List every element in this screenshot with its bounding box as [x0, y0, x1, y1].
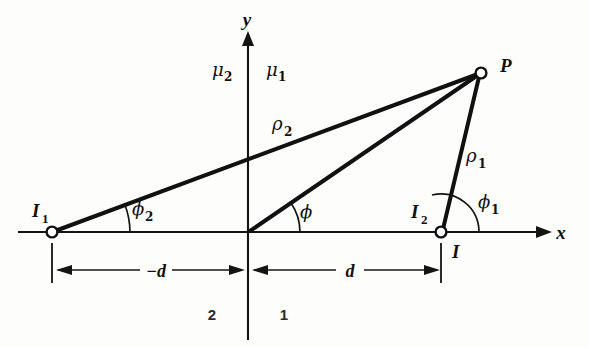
label-I2: I 2 [410, 201, 428, 227]
point-marker-I1 [47, 227, 58, 238]
x-axis [18, 226, 552, 238]
rho2-symbol: ρ [271, 113, 283, 134]
phi-symbol: ϕ [300, 201, 312, 222]
dim-arrowhead-negd-start [56, 265, 72, 275]
y-axis-label: y [241, 9, 252, 30]
y-axis [242, 31, 254, 340]
I-label: I [451, 241, 460, 262]
label-phi1: ϕ 1 [478, 191, 499, 217]
I1-symbol: I [31, 200, 40, 221]
region-label-1: 1 [280, 306, 288, 323]
dimension-group [52, 243, 441, 283]
dimension-label-neg-d: −d [146, 261, 167, 281]
phi1-symbol: ϕ [478, 191, 490, 212]
angle-arc-phi [291, 203, 300, 232]
mu2-symbol: μ [212, 59, 224, 80]
ray-rho-line [250, 75, 478, 231]
label-rho2: ρ 2 [271, 113, 292, 139]
label-mu2: μ 2 [212, 59, 232, 84]
I2-symbol: I [410, 201, 419, 222]
dim-arrowhead-negd-end [229, 265, 245, 275]
mu2-subscript: 2 [224, 70, 232, 84]
image-current-diagram: y x μ 2 μ 1 I 1 I 2 P I ρ 2 [0, 0, 589, 347]
label-mu1: μ 1 [266, 59, 286, 84]
point-marker-I2 [436, 227, 447, 238]
mu1-symbol: μ [266, 59, 278, 80]
P-label: P [499, 55, 512, 76]
physics-diagram-canvas: y x μ 2 μ 1 I 1 I 2 P I ρ 2 [0, 0, 589, 347]
rho2-subscript: 2 [284, 125, 292, 139]
region-label-2: 2 [208, 306, 216, 323]
phi2-symbol: ϕ [132, 198, 144, 219]
dimension-label-d: d [346, 261, 356, 281]
rho1-subscript: 1 [478, 157, 486, 171]
label-rho1: ρ 1 [465, 145, 486, 171]
mu1-subscript: 1 [278, 70, 286, 84]
phi2-subscript: 2 [145, 210, 153, 224]
I1-subscript: 1 [42, 211, 49, 226]
I2-subscript: 2 [421, 212, 428, 227]
dim-arrowhead-d-start [252, 265, 268, 275]
dim-arrowhead-d-end [424, 265, 440, 275]
angle-arc-phi2 [125, 205, 130, 232]
label-I1: I 1 [31, 200, 49, 226]
x-axis-label: x [555, 222, 566, 243]
x-axis-arrowhead [536, 226, 552, 238]
label-phi2: ϕ 2 [132, 198, 153, 224]
y-axis-arrowhead [242, 31, 254, 46]
phi1-subscript: 1 [491, 203, 499, 217]
rho1-symbol: ρ [465, 145, 477, 166]
point-marker-P [476, 68, 487, 79]
